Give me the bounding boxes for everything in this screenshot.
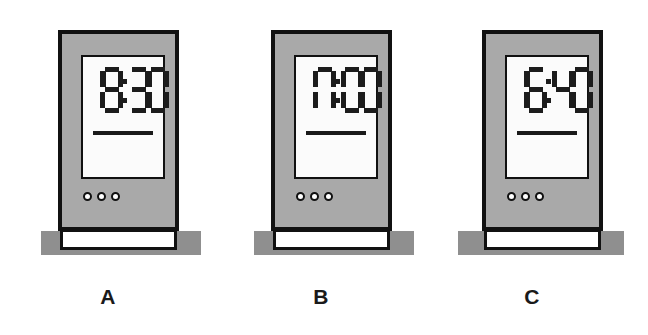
clock-button-2-c[interactable]: [521, 192, 530, 201]
time-separator-colon: [333, 67, 340, 113]
clock-time-display-b: [296, 67, 376, 113]
segment-g: [105, 87, 119, 92]
clock-screen-c: [505, 55, 589, 179]
segment-c: [164, 92, 169, 108]
seven-segment-digit: [525, 67, 541, 113]
screen-underline-bar-a: [93, 131, 153, 135]
clock-button-1-b[interactable]: [296, 192, 305, 201]
segment-e: [147, 92, 152, 108]
clock-buttons-c[interactable]: [507, 192, 544, 201]
clock-button-2-b[interactable]: [310, 192, 319, 201]
segment-c: [377, 92, 382, 108]
clock-time-display-c: [507, 67, 587, 113]
seven-segment-digit: [296, 67, 312, 113]
clock-stand-c: [484, 229, 601, 250]
seven-segment-digit: [147, 67, 163, 113]
segment-e: [571, 92, 576, 108]
clock-button-3-a[interactable]: [111, 192, 120, 201]
segment-b: [377, 71, 382, 87]
clock-unit-c: C: [432, 0, 632, 335]
segment-a: [132, 67, 146, 72]
clock-label-a: A: [8, 285, 208, 309]
segment-g: [556, 87, 570, 92]
clock-unit-b: B: [221, 0, 421, 335]
clock-body-c: [482, 30, 603, 231]
clock-label-c: C: [432, 285, 632, 309]
segment-g: [132, 87, 146, 92]
segment-d: [132, 108, 146, 113]
segment-a: [151, 67, 165, 72]
clock-button-3-c[interactable]: [535, 192, 544, 201]
clock-body-a: [58, 30, 179, 231]
segment-f: [571, 71, 576, 87]
clock-unit-a: A: [8, 0, 208, 335]
seven-segment-digit: [341, 67, 357, 113]
segment-d: [529, 108, 543, 113]
segment-e: [341, 92, 346, 108]
clock-button-2-a[interactable]: [97, 192, 106, 201]
seven-segment-digit: [552, 67, 568, 113]
segment-d: [345, 108, 359, 113]
seven-segment-digit: [83, 67, 99, 113]
segment-a: [105, 67, 119, 72]
segment-a: [529, 67, 543, 72]
seven-segment-digit: [571, 67, 587, 113]
segment-a: [318, 67, 332, 72]
segment-c: [588, 92, 593, 108]
segment-f: [525, 71, 530, 87]
clock-stand-a: [60, 229, 177, 250]
clock-label-b: B: [221, 285, 421, 309]
seven-segment-digit: [314, 67, 330, 113]
clock-button-1-a[interactable]: [83, 192, 92, 201]
clock-body-b: [271, 30, 392, 231]
clock-stand-b: [273, 229, 390, 250]
segment-a: [575, 67, 589, 72]
segment-a: [364, 67, 378, 72]
segment-d: [151, 108, 165, 113]
segment-d: [105, 108, 119, 113]
segment-e: [525, 92, 530, 108]
clock-screen-a: [81, 55, 165, 179]
seven-segment-digit: [507, 67, 523, 113]
segment-f: [147, 71, 152, 87]
screen-underline-bar-c: [517, 131, 577, 135]
clocks-illustration: A B: [0, 0, 648, 335]
screen-underline-bar-b: [306, 131, 366, 135]
clock-buttons-a[interactable]: [83, 192, 120, 201]
clock-screen-b: [294, 55, 378, 179]
segment-b: [164, 71, 169, 87]
seven-segment-digit: [128, 67, 144, 113]
clock-button-3-b[interactable]: [324, 192, 333, 201]
segment-d: [575, 108, 589, 113]
segment-e: [360, 92, 365, 108]
segment-b: [588, 71, 593, 87]
time-separator-colon: [544, 67, 551, 113]
segment-f: [101, 71, 106, 87]
clock-button-1-c[interactable]: [507, 192, 516, 201]
segment-d: [364, 108, 378, 113]
segment-f: [341, 71, 346, 87]
clock-buttons-b[interactable]: [296, 192, 333, 201]
segment-f: [552, 71, 557, 87]
time-separator-colon: [120, 67, 127, 113]
segment-g: [529, 87, 543, 92]
segment-a: [345, 67, 359, 72]
seven-segment-digit: [101, 67, 117, 113]
segment-f: [360, 71, 365, 87]
clock-time-display-a: [83, 67, 163, 113]
seven-segment-digit: [360, 67, 376, 113]
